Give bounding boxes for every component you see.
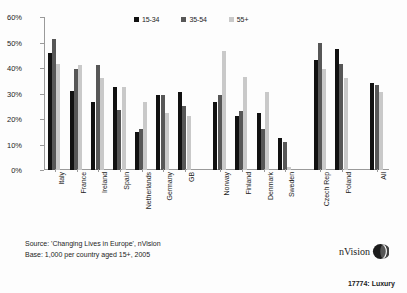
y-axis-tick-label: 60%	[7, 13, 22, 22]
x-axis-tick	[77, 169, 78, 172]
x-axis-tick	[264, 169, 265, 172]
x-axis-category-label: Norway	[223, 172, 230, 195]
x-axis-tick	[242, 169, 243, 172]
x-axis-tick	[55, 169, 56, 172]
x-axis-category-label: Netherlands	[145, 172, 152, 209]
y-axis-tick-label: 30%	[7, 89, 22, 98]
x-axis-tick	[342, 169, 343, 172]
y-axis-tick	[40, 68, 44, 69]
x-axis-tick	[220, 169, 221, 172]
bar	[322, 69, 326, 170]
bar	[344, 78, 348, 170]
chart-footnotes: Source: 'Changing Lives in Europe', nVis…	[25, 238, 161, 260]
bar	[100, 78, 104, 170]
x-axis-tick	[285, 169, 286, 172]
x-axis-category-label: Finland	[245, 172, 252, 195]
y-axis-tick-label: 40%	[7, 64, 22, 73]
y-axis-tick-label: 0%	[11, 166, 22, 175]
source-line: Source: 'Changing Lives in Europe', nVis…	[25, 238, 161, 249]
y-axis-tick	[40, 17, 44, 18]
bar	[122, 87, 126, 170]
x-axis-tick	[163, 169, 164, 172]
x-axis-category-label: All	[380, 172, 387, 180]
x-axis-category-label: Ireland	[101, 172, 108, 193]
x-axis-category-label: Spain	[123, 172, 130, 190]
y-axis-tick-label: 10%	[7, 140, 22, 149]
x-axis-tick	[98, 169, 99, 172]
y-axis-tick-label: 20%	[7, 115, 22, 124]
x-axis-tick	[320, 169, 321, 172]
x-axis-tick	[185, 169, 186, 172]
globe-icon	[372, 243, 389, 260]
nvision-logo: nVision	[339, 243, 389, 260]
x-axis-category-label: Denmark	[267, 172, 274, 200]
bar-series-group	[45, 17, 389, 170]
bar	[222, 51, 226, 170]
bar	[143, 102, 147, 170]
bar	[379, 92, 383, 170]
base-line: Base: 1,000 per country aged 15+, 2005	[25, 249, 161, 260]
x-axis-category-labels: ItalyFranceIrelandSpainNetherlandsGerman…	[44, 172, 389, 227]
x-axis-category-label: Italy	[58, 172, 65, 185]
x-axis-tick	[142, 169, 143, 172]
y-axis-tick	[40, 170, 44, 171]
bar	[78, 65, 82, 170]
reference-code: 17774: Luxury	[348, 280, 395, 287]
y-axis-tick	[40, 119, 44, 120]
bar	[283, 142, 287, 170]
x-axis-category-label: Germany	[166, 172, 173, 200]
chart-figure: 15-34 35-54 55+ 0%10%20%30%40%50%60% Ita…	[0, 0, 407, 293]
x-axis-category-label: France	[80, 172, 87, 194]
bar	[265, 92, 269, 170]
bar	[243, 77, 247, 170]
bar	[287, 167, 291, 170]
x-axis-category-label: Czech Rep	[323, 172, 330, 206]
bar	[165, 113, 169, 170]
x-axis-tick	[377, 169, 378, 172]
x-axis-category-label: Sweden	[288, 172, 295, 197]
bar	[56, 64, 60, 170]
y-axis-tick-label: 50%	[7, 38, 22, 47]
plot-area: 0%10%20%30%40%50%60%	[44, 17, 389, 170]
y-axis-tick	[40, 43, 44, 44]
brand-name: nVision	[339, 246, 370, 257]
x-axis-category-label: Poland	[345, 172, 352, 194]
x-axis-tick	[120, 169, 121, 172]
y-axis-tick	[40, 94, 44, 95]
y-axis-tick	[40, 145, 44, 146]
x-axis-category-label: GB	[188, 172, 195, 182]
bar	[187, 116, 191, 170]
